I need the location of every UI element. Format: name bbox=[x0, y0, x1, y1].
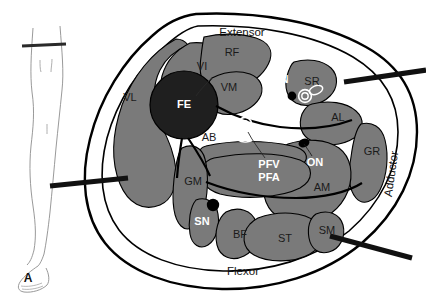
muscle-label-bf: BF bbox=[233, 228, 247, 240]
panel-letter: A bbox=[24, 271, 33, 285]
muscle-pfv-pfa-bed bbox=[201, 154, 311, 198]
nv-label-fn: FN bbox=[274, 73, 289, 85]
compartment-label-extensor: Extensor bbox=[219, 26, 265, 38]
femoral-vein-marker bbox=[288, 92, 297, 101]
muscle-label-vl: VL bbox=[123, 91, 136, 103]
muscle-label-sm: SM bbox=[319, 224, 336, 236]
nv-label-pfa: PFA bbox=[258, 171, 279, 183]
muscle-label-al: AL bbox=[331, 111, 344, 123]
nv-label-sn: SN bbox=[194, 215, 209, 227]
compartment-label-flexor: Flexor bbox=[227, 265, 259, 277]
muscle-label-gr: GR bbox=[364, 145, 381, 157]
muscle-label-st: ST bbox=[278, 232, 292, 244]
nv-label-fa: FA bbox=[274, 60, 288, 72]
thigh-cross-section-figure: Extensor Flexor Adductor VL VI VM RF SR … bbox=[0, 0, 426, 301]
muscle-label-ab: AB bbox=[202, 131, 217, 143]
muscle-label-rf: RF bbox=[225, 46, 240, 58]
muscle-al bbox=[300, 102, 362, 145]
muscle-label-vi: VI bbox=[197, 60, 207, 72]
muscle-label-sr: SR bbox=[304, 75, 319, 87]
muscle-label-vm: VM bbox=[221, 81, 238, 93]
sciatic-nerve-marker bbox=[207, 199, 219, 211]
muscle-label-am: AM bbox=[314, 181, 331, 193]
nv-label-pfv: PFV bbox=[258, 158, 280, 170]
figure-root: Extensor Flexor Adductor VL VI VM RF SR … bbox=[0, 0, 426, 301]
muscle-label-gm: GM bbox=[184, 175, 202, 187]
nv-label-on: ON bbox=[307, 156, 324, 168]
nv-label-fv: FV bbox=[274, 47, 289, 59]
bone-label-fe: FE bbox=[177, 98, 191, 110]
section-level-bar bbox=[22, 44, 66, 46]
